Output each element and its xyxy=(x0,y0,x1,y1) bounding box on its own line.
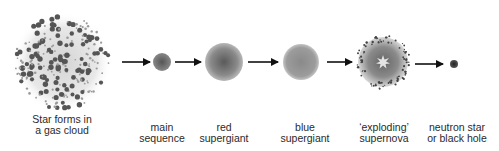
label-line: sequence xyxy=(139,133,185,144)
label-main-sequence: main sequence xyxy=(139,122,185,144)
label-blue-supergiant: blue supergiant xyxy=(280,122,329,144)
label-red-supergiant: red supergiant xyxy=(199,122,248,144)
blue-supergiant-star xyxy=(283,44,319,80)
label-line: supernova xyxy=(359,133,409,144)
label-gas-cloud: Star forms in a gas cloud xyxy=(32,114,92,136)
label-line: a gas cloud xyxy=(32,125,92,136)
label-neutron-star: neutron star or black hole xyxy=(427,122,487,144)
label-line: supergiant xyxy=(280,133,329,144)
neutron-star-object xyxy=(450,60,458,68)
label-line: supergiant xyxy=(199,133,248,144)
supernova-stage xyxy=(357,35,410,89)
main-sequence-star xyxy=(153,53,171,71)
gas-cloud-stage xyxy=(12,12,112,112)
red-supergiant-star xyxy=(205,43,243,81)
label-supernova: ‘exploding’ supernova xyxy=(359,122,409,144)
label-line: or black hole xyxy=(427,133,487,144)
